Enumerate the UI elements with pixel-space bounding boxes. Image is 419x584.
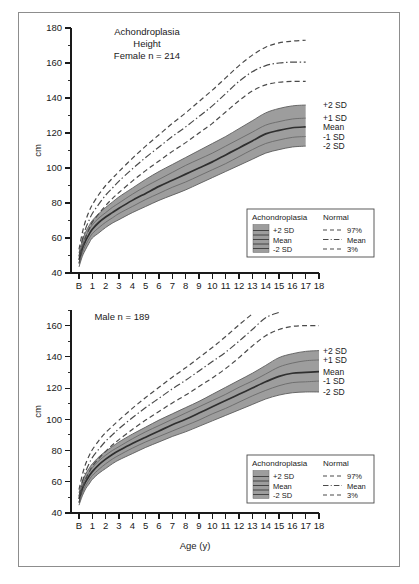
female-xtick-label-9: 9 — [196, 280, 201, 291]
male-ytick-label-100: 100 — [46, 414, 62, 425]
male-xtick-label-2: 2 — [103, 520, 108, 531]
female-xtick-label-12: 12 — [234, 280, 245, 291]
female-legend-heading-achondroplasia: Achondroplasia — [252, 213, 308, 222]
female-ytick-label-60: 60 — [51, 232, 62, 243]
female-xtick-label-17: 17 — [300, 280, 311, 291]
male-ytick-label-120: 120 — [46, 382, 62, 393]
female-xtick-label-5: 5 — [143, 280, 148, 291]
female-legend: AchondroplasiaNormal+2 SDMean-2 SD97%Mea… — [247, 209, 374, 257]
female-sd-label-0: +2 SD — [323, 100, 347, 110]
male-legend: AchondroplasiaNormal+2 SDMean-2 SD97%Mea… — [247, 455, 374, 503]
female-xtick-label-6: 6 — [156, 280, 161, 291]
male-xtick-label-11: 11 — [221, 520, 231, 531]
female-sd-label-3: -1 SD — [323, 132, 345, 142]
male-x-axis-title: Age (y) — [180, 540, 211, 551]
female-ytick-label-80: 80 — [51, 197, 62, 208]
male-xtick-label-18: 18 — [314, 520, 325, 531]
female-sd-label-4: -2 SD — [323, 141, 345, 151]
female-xtick-label-15: 15 — [274, 280, 285, 291]
female-y-axis-title: cm — [32, 144, 43, 157]
female-legend-left-item-0: +2 SD — [273, 226, 295, 235]
female-ytick-label-180: 180 — [46, 22, 62, 33]
male-legend-right-item-0: 97% — [347, 472, 362, 481]
male-legend-heading-normal: Normal — [323, 459, 349, 468]
male-xtick-label-10: 10 — [207, 520, 218, 531]
female-ytick-label-160: 160 — [46, 57, 62, 68]
male-legend-left-item-0: +2 SD — [273, 472, 295, 481]
male-xtick-label-4: 4 — [130, 520, 135, 531]
male-xtick-label-7: 7 — [170, 520, 175, 531]
male-xtick-label-3: 3 — [116, 520, 121, 531]
male-legend-heading-achondroplasia: Achondroplasia — [252, 459, 308, 468]
female-xtick-label-B: B — [76, 280, 82, 291]
female-title-line-0: Achondroplasia — [114, 26, 180, 37]
growth-chart-female: 406080100120140160180cmB1234567891011121… — [19, 13, 401, 298]
male-xtick-label-17: 17 — [300, 520, 311, 531]
female-sd-label-2: Mean — [323, 122, 345, 132]
female-xtick-label-2: 2 — [103, 280, 108, 291]
male-y-axis-title: cm — [32, 405, 43, 418]
male-ytick-label-80: 80 — [51, 445, 62, 456]
male-sd-label-4: -2 SD — [323, 387, 345, 397]
female-xtick-label-4: 4 — [130, 280, 135, 291]
female-title-line-2: Female n = 214 — [114, 50, 180, 61]
female-legend-right-item-0: 97% — [347, 226, 362, 235]
male-xtick-label-B: B — [76, 520, 82, 531]
male-xtick-label-1: 1 — [90, 520, 95, 531]
female-title-line-1: Height — [133, 38, 161, 49]
male-sd-label-3: -1 SD — [323, 376, 345, 386]
female-xtick-label-3: 3 — [116, 280, 121, 291]
female-legend-left-item-2: -2 SD — [273, 245, 293, 254]
female-ytick-label-100: 100 — [46, 162, 62, 173]
male-xtick-label-8: 8 — [183, 520, 188, 531]
female-xtick-label-1: 1 — [90, 280, 95, 291]
female-legend-right-item-2: 3% — [347, 245, 358, 254]
female-xtick-label-11: 11 — [221, 280, 231, 291]
male-xtick-label-15: 15 — [274, 520, 285, 531]
male-xtick-label-6: 6 — [156, 520, 161, 531]
male-title-line-0: Male n = 189 — [94, 311, 149, 322]
male-ytick-label-160: 160 — [46, 320, 62, 331]
female-xtick-label-10: 10 — [207, 280, 218, 291]
male-xtick-label-16: 16 — [287, 520, 298, 531]
male-sd-label-1: +1 SD — [323, 355, 347, 365]
female-legend-left-item-1: Mean — [273, 236, 292, 245]
male-ytick-label-60: 60 — [51, 476, 62, 487]
female-xtick-label-13: 13 — [247, 280, 258, 291]
male-xtick-label-9: 9 — [196, 520, 201, 531]
male-legend-left-item-2: -2 SD — [273, 491, 293, 500]
female-xtick-label-16: 16 — [287, 280, 298, 291]
male-ytick-label-140: 140 — [46, 351, 62, 362]
male-legend-right-item-1: Mean — [347, 482, 366, 491]
male-xtick-label-13: 13 — [247, 520, 258, 531]
male-xtick-label-5: 5 — [143, 520, 148, 531]
growth-chart-male-svg: 406080100120140160cmB1234567891011121314… — [19, 298, 401, 568]
male-ytick-label-40: 40 — [51, 507, 62, 518]
male-legend-right-item-2: 3% — [347, 491, 358, 500]
female-ytick-label-40: 40 — [51, 267, 62, 278]
growth-chart-female-svg: 406080100120140160180cmB1234567891011121… — [19, 13, 401, 298]
female-xtick-label-7: 7 — [170, 280, 175, 291]
growth-chart-male: 406080100120140160cmB1234567891011121314… — [19, 298, 401, 568]
male-xtick-label-14: 14 — [260, 520, 271, 531]
female-xtick-label-18: 18 — [314, 280, 325, 291]
female-legend-heading-normal: Normal — [323, 213, 349, 222]
figure-frame: 406080100120140160180cmB1234567891011121… — [18, 12, 400, 567]
female-xtick-label-8: 8 — [183, 280, 188, 291]
female-ytick-label-140: 140 — [46, 92, 62, 103]
male-xtick-label-12: 12 — [234, 520, 245, 531]
female-legend-right-item-1: Mean — [347, 236, 366, 245]
male-legend-left-item-1: Mean — [273, 482, 292, 491]
female-ytick-label-120: 120 — [46, 127, 62, 138]
female-xtick-label-14: 14 — [260, 280, 271, 291]
